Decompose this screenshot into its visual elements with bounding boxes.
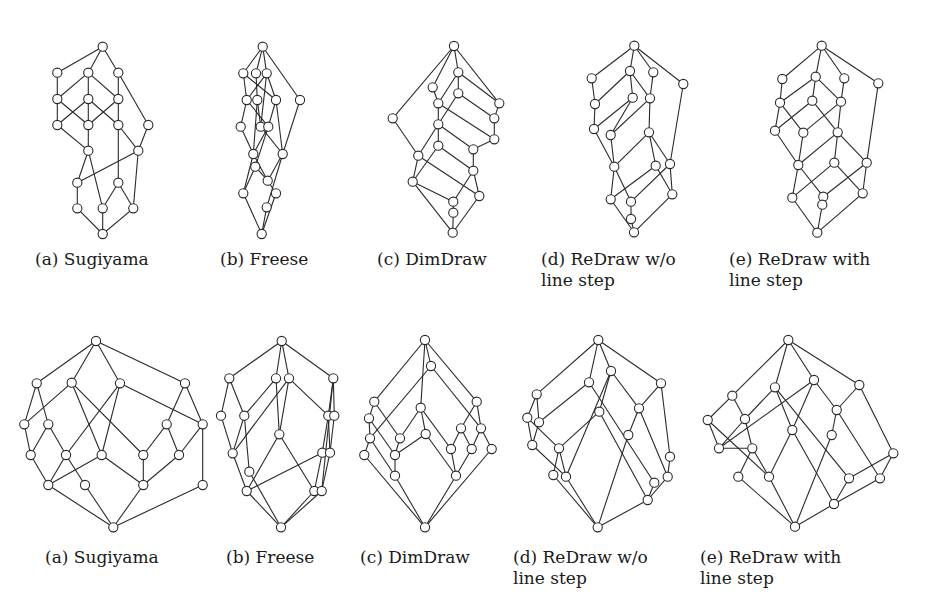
lattice-node — [606, 195, 615, 204]
lattice-node — [236, 122, 245, 131]
lattice-node — [663, 472, 672, 481]
lattice-edge — [792, 198, 817, 233]
caption-line1: (d) ReDraw w/o — [513, 547, 648, 568]
lattice-node — [606, 130, 615, 139]
lattice-node — [271, 189, 280, 198]
lattice-edge — [611, 98, 650, 135]
lattice-edge — [838, 132, 867, 162]
lattice-node — [827, 430, 836, 439]
lattice-node — [251, 69, 260, 78]
lattice-node — [740, 414, 749, 423]
lattice-node — [454, 68, 463, 77]
lattice-edge — [281, 491, 322, 527]
lattice-node — [114, 120, 123, 129]
lattice-node — [624, 430, 633, 439]
lattice-edge — [421, 408, 451, 449]
lattice-node — [650, 478, 659, 487]
lattice-node — [240, 411, 249, 420]
caption-line1: (c) DimDraw — [377, 249, 487, 270]
lattice-edge — [167, 383, 185, 424]
lattice-edge — [279, 378, 289, 434]
lattice-node — [809, 375, 818, 384]
lattice-node — [606, 366, 615, 375]
lattice-node — [257, 229, 266, 238]
lattice-node — [129, 204, 138, 213]
lattice-edge — [745, 387, 775, 419]
lattice-node — [448, 228, 457, 237]
lattice-edge — [670, 84, 683, 164]
lattice-node — [98, 229, 107, 238]
lattice-node — [84, 146, 93, 155]
lattice-node — [679, 79, 688, 88]
caption-bottom-b: (b) Freese — [226, 547, 314, 568]
lattice-node — [26, 450, 35, 459]
lattice-node — [449, 208, 458, 217]
lattice-edge — [634, 46, 683, 84]
lattice-node — [390, 471, 399, 480]
lattice-node — [830, 158, 839, 167]
lattice-node — [317, 486, 326, 495]
caption-line2: line step — [541, 270, 676, 291]
lattice-node — [67, 378, 76, 387]
lattice-node — [271, 95, 280, 104]
lattice-node — [794, 160, 803, 169]
caption-line1: (e) ReDraw with — [700, 547, 841, 568]
lattice-edge — [614, 132, 649, 166]
lattice-node — [434, 99, 443, 108]
lattice-node — [451, 471, 460, 480]
caption-line1: (b) Freese — [226, 547, 314, 568]
lattice-node — [554, 444, 563, 453]
lattice-node — [808, 96, 817, 105]
lattice-node — [275, 430, 284, 439]
lattice-node — [249, 149, 258, 158]
lattice-edge — [859, 385, 893, 453]
lattice-edge — [795, 435, 832, 527]
caption-bottom-c: (c) DimDraw — [360, 547, 470, 568]
lattice-edge — [769, 430, 792, 477]
lattice-node — [534, 418, 543, 427]
lattice-node — [668, 190, 677, 199]
lattice-node — [420, 335, 429, 344]
lattice-node — [628, 93, 637, 102]
lattice-node — [490, 114, 499, 123]
lattice-edge — [281, 491, 314, 527]
lattice-node — [258, 42, 267, 51]
lattice-edge — [96, 341, 185, 383]
lattice-edge — [395, 476, 425, 528]
lattice-node — [862, 158, 871, 167]
lattice-edge — [276, 378, 279, 434]
lattice-node — [490, 135, 499, 144]
lattice-edge — [775, 387, 792, 430]
lattice-node — [833, 128, 842, 137]
lattice-node — [97, 450, 106, 459]
caption-top-a: (a) Sugiyama — [35, 249, 149, 270]
lattice-node — [626, 214, 635, 223]
lattice-edge — [31, 455, 49, 485]
lattice-edge — [812, 101, 837, 133]
lattice-node — [364, 414, 373, 423]
lattice-node — [487, 444, 496, 453]
lattice-edge — [221, 378, 229, 415]
lattice-edge — [143, 455, 179, 485]
lattice-edge — [453, 171, 473, 202]
lattice-node — [595, 407, 604, 416]
caption-line1: (d) ReDraw w/o — [541, 249, 676, 270]
lattice-node — [365, 434, 374, 443]
lattice-node — [73, 178, 82, 187]
lattice-node — [144, 120, 153, 129]
lattice-edge — [276, 341, 282, 378]
lattice-node — [228, 449, 237, 458]
lattice-node — [818, 200, 827, 209]
lattice-node — [388, 114, 397, 123]
lattice-edge — [611, 98, 633, 135]
lattice-edge — [413, 182, 453, 233]
lattice-edge — [233, 416, 245, 454]
lattice-edge — [708, 396, 733, 420]
lattice-node — [855, 380, 864, 389]
lattice-edge — [867, 83, 879, 162]
lattice-edge — [48, 424, 66, 455]
lattice-edge — [599, 371, 611, 412]
caption-line2: line step — [513, 568, 648, 589]
lattice-node — [817, 41, 826, 50]
lattice-node — [811, 72, 820, 81]
